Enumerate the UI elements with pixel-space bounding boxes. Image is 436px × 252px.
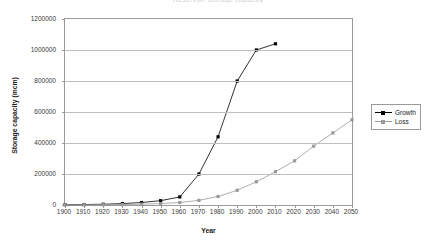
x-axis-tick-label: 2030 (305, 208, 319, 215)
data-point-marker (274, 42, 277, 45)
legend-label: Growth (392, 109, 416, 116)
data-point-marker (178, 201, 181, 204)
y-axis-tick-label: 600000 (34, 108, 56, 115)
data-point-marker (216, 195, 219, 198)
gridline (65, 81, 352, 82)
data-point-marker (312, 145, 315, 148)
x-axis-tick-label: 1970 (191, 208, 205, 215)
y-axis-tick-label: 1000000 (31, 46, 56, 53)
x-axis-tick (218, 205, 219, 208)
x-axis-tick (314, 205, 315, 208)
data-point-marker (255, 180, 258, 183)
x-axis-tick-label: 2040 (325, 208, 339, 215)
y-axis-tick-label: 1200000 (31, 15, 56, 22)
x-axis-tick-label: 1940 (133, 208, 147, 215)
y-axis-tick (62, 112, 65, 113)
x-axis-tick (84, 205, 85, 208)
data-point-marker (159, 199, 162, 202)
x-axis-tick (180, 205, 181, 208)
gridline (65, 112, 352, 113)
y-axis-tick-label: 400000 (34, 139, 56, 146)
data-point-marker (350, 118, 353, 121)
x-axis-tick-label: 1900 (57, 208, 71, 215)
x-axis-tick (237, 205, 238, 208)
legend-label: Loss (392, 118, 409, 125)
series-line-loss (65, 120, 352, 205)
chart-title: Reservoir storage capacity (0, 0, 436, 3)
y-axis-tick-label: 200000 (34, 170, 56, 177)
x-axis-tick-label: 2010 (267, 208, 281, 215)
plot-area (64, 18, 353, 206)
x-axis-tick (122, 205, 123, 208)
y-axis-tick (62, 174, 65, 175)
x-axis-tick-label: 1960 (172, 208, 186, 215)
x-axis-tick (161, 205, 162, 208)
x-axis-tick-label: 2050 (344, 208, 358, 215)
x-axis-tick-label: 2000 (248, 208, 262, 215)
y-axis-tick (62, 50, 65, 51)
y-axis-tick-label: 800000 (34, 77, 56, 84)
data-point-marker (293, 159, 296, 162)
data-point-marker (331, 131, 334, 134)
x-axis-tick-label: 1930 (114, 208, 128, 215)
legend-item-loss[interactable]: Loss (375, 117, 416, 126)
x-axis-tick-label: 2020 (286, 208, 300, 215)
x-axis-tick-label: 1980 (210, 208, 224, 215)
x-axis-title: Year (64, 227, 353, 234)
data-point-marker (236, 189, 239, 192)
x-axis-tick (65, 205, 66, 208)
x-axis-tick (352, 205, 353, 208)
legend-item-growth[interactable]: Growth (375, 108, 416, 117)
series-line-growth (65, 44, 275, 205)
x-axis-tick (295, 205, 296, 208)
legend-marker-icon (375, 117, 392, 126)
gridline (65, 174, 352, 175)
chart-container: Reservoir storage capacity Storage capac… (0, 0, 436, 252)
y-axis-tick (62, 143, 65, 144)
data-point-marker (216, 135, 219, 138)
y-axis-tick (62, 81, 65, 82)
data-point-marker (197, 199, 200, 202)
legend-marker-icon (375, 108, 392, 117)
x-axis-tick-labels: 1900191019201930194019501960197019801990… (64, 208, 353, 220)
chart-legend: GrowthLoss (371, 104, 421, 130)
x-axis-tick (103, 205, 104, 208)
x-axis-tick-label: 1990 (229, 208, 243, 215)
y-axis-tick-labels: 020000040000060000080000010000001200000 (0, 18, 61, 206)
y-axis-tick-label: 0 (52, 201, 56, 208)
y-axis-tick (62, 19, 65, 20)
x-axis-tick-label: 1910 (76, 208, 90, 215)
x-axis-tick (275, 205, 276, 208)
x-axis-tick-label: 1920 (95, 208, 109, 215)
gridline (65, 143, 352, 144)
x-axis-tick (333, 205, 334, 208)
data-point-marker (274, 170, 277, 173)
data-point-marker (178, 195, 181, 198)
x-axis-tick (142, 205, 143, 208)
x-axis-tick (199, 205, 200, 208)
gridline (65, 50, 352, 51)
x-axis-tick (256, 205, 257, 208)
x-axis-tick-label: 1950 (152, 208, 166, 215)
